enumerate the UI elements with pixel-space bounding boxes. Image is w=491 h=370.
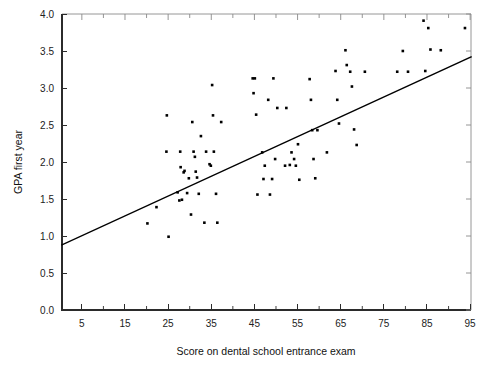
data-point-marker: [285, 107, 288, 110]
chart-canvas: 0.00.51.01.52.02.53.03.54.0 515253545556…: [0, 0, 491, 370]
data-point-marker: [188, 177, 191, 180]
axes: [62, 14, 471, 310]
data-point-marker: [308, 78, 311, 81]
data-point-marker: [191, 121, 194, 124]
data-point-marker: [284, 164, 287, 167]
data-point-marker: [295, 164, 298, 167]
data-point-marker: [186, 192, 189, 195]
data-point-marker: [267, 99, 270, 102]
data-point-marker: [310, 99, 313, 102]
data-point-marker: [355, 144, 358, 147]
data-point-marker: [155, 206, 158, 209]
data-point-marker: [424, 70, 427, 73]
data-point-marker: [194, 156, 197, 159]
data-point-marker: [429, 48, 432, 51]
regression-line-path: [62, 57, 471, 245]
data-point-marker: [464, 27, 467, 30]
x-tick-label: 75: [378, 318, 390, 329]
y-tick-label: 2.0: [40, 157, 54, 168]
data-point-marker: [422, 19, 425, 22]
data-point-marker: [212, 114, 215, 117]
data-point-marker: [192, 150, 195, 153]
y-tick-label: 1.5: [40, 194, 54, 205]
data-point-marker: [179, 150, 182, 153]
y-tick-label: 2.5: [40, 120, 54, 131]
data-point-marker: [289, 164, 292, 167]
y-tick-label: 1.0: [40, 231, 54, 242]
y-axis-tick-labels: 0.00.51.01.52.02.53.03.54.0: [40, 9, 54, 316]
data-point-marker: [190, 213, 193, 216]
data-point-marker: [316, 129, 319, 132]
data-point-marker: [364, 70, 367, 73]
data-point-marker: [312, 158, 315, 161]
regression-line: [62, 57, 471, 245]
data-point-marker: [166, 114, 169, 117]
data-point-marker: [262, 178, 265, 181]
data-point-marker: [203, 221, 206, 224]
data-point-marker: [255, 113, 258, 116]
data-point-marker: [276, 107, 279, 110]
tick-marks: [62, 14, 471, 310]
scatter-plot-figure: 0.00.51.01.52.02.53.03.54.0 515253545556…: [0, 0, 491, 370]
data-point-marker: [252, 92, 255, 95]
x-tick-label: 55: [292, 318, 304, 329]
data-point-marker: [254, 77, 257, 80]
x-tick-label: 25: [163, 318, 175, 329]
data-point-marker: [263, 164, 266, 167]
data-point-marker: [269, 193, 272, 196]
data-point-marker: [293, 158, 296, 161]
data-point-marker: [200, 135, 203, 138]
data-point-marker: [334, 70, 337, 73]
data-point-marker: [402, 50, 405, 53]
x-tick-label: 45: [249, 318, 261, 329]
data-point-marker: [345, 64, 348, 67]
data-point-marker: [213, 150, 216, 153]
x-axis-tick-labels: 5152535455565758595: [79, 318, 476, 329]
data-point-marker: [178, 199, 181, 202]
data-point-marker: [298, 178, 301, 181]
data-point-marker: [338, 122, 341, 125]
data-point-marker: [216, 221, 219, 224]
data-point-marker: [427, 27, 430, 30]
data-point-marker: [290, 151, 293, 154]
y-tick-label: 3.5: [40, 46, 54, 57]
x-tick-label: 5: [79, 318, 85, 329]
y-tick-label: 0.5: [40, 268, 54, 279]
data-point-marker: [272, 77, 275, 80]
data-point-marker: [326, 151, 329, 154]
data-point-marker: [274, 158, 277, 161]
data-point-marker: [183, 170, 186, 173]
data-point-marker: [181, 198, 184, 201]
data-point-marker: [215, 193, 218, 196]
x-tick-label: 95: [465, 318, 477, 329]
data-point-marker: [344, 49, 347, 52]
x-axis-title: Score on dental school entrance exam: [176, 345, 355, 357]
y-tick-label: 0.0: [40, 305, 54, 316]
y-tick-label: 4.0: [40, 9, 54, 20]
data-point-marker: [146, 222, 149, 225]
data-point-marker: [311, 129, 314, 132]
data-point-marker: [261, 151, 264, 154]
data-point-marker: [205, 150, 208, 153]
x-tick-label: 15: [119, 318, 131, 329]
data-point-marker: [210, 164, 213, 167]
x-tick-label: 65: [335, 318, 347, 329]
data-points: [146, 19, 466, 238]
data-point-marker: [351, 85, 354, 88]
data-point-marker: [396, 70, 399, 73]
axis-spines: [62, 14, 471, 310]
data-point-marker: [196, 176, 199, 179]
data-point-marker: [176, 191, 179, 194]
x-tick-label: 85: [421, 318, 433, 329]
data-point-marker: [167, 235, 170, 238]
data-point-marker: [297, 143, 300, 146]
data-point-marker: [220, 121, 223, 124]
data-point-marker: [179, 166, 182, 169]
data-point-marker: [256, 193, 259, 196]
data-point-marker: [197, 193, 200, 196]
data-point-marker: [211, 84, 214, 87]
y-tick-label: 3.0: [40, 83, 54, 94]
data-point-marker: [165, 150, 168, 153]
data-point-marker: [271, 178, 274, 181]
data-point-marker: [440, 49, 443, 52]
